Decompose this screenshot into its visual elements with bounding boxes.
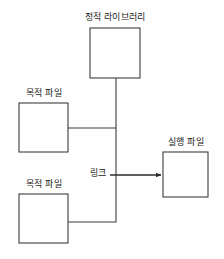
diagram-graphics bbox=[0, 0, 224, 259]
node-label-static-library: 정적 라이브러리 bbox=[74, 12, 156, 23]
node-box-static-library bbox=[90, 28, 140, 78]
node-box-object-file-2 bbox=[19, 194, 68, 243]
node-box-object-file-1 bbox=[19, 103, 68, 152]
node-label-object-file-2: 목적 파일 bbox=[18, 179, 70, 190]
edge-label-link: 링크 bbox=[84, 168, 106, 179]
node-label-object-file-1: 목적 파일 bbox=[18, 88, 70, 99]
diagram-canvas: 정적 라이브러리 목적 파일 목적 파일 실행 파일 링크 bbox=[0, 0, 224, 259]
edge-object-file-2-to-junction bbox=[68, 175, 116, 222]
node-box-executable bbox=[163, 152, 208, 197]
node-label-executable: 실행 파일 bbox=[161, 137, 211, 148]
